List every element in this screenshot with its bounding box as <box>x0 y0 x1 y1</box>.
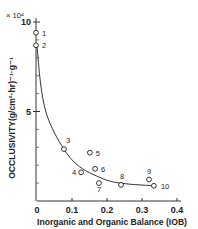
fit-curve <box>37 45 154 186</box>
x-tick-label: 0.4 <box>171 205 184 215</box>
y-multiplier: × 10⁴ <box>6 11 24 20</box>
open-circle-marker-icon <box>34 43 39 48</box>
point-label: 6 <box>101 165 105 174</box>
y-tick-label: 5 <box>26 107 31 117</box>
open-circle-marker-icon <box>152 183 157 188</box>
x-axis-title: Inorganic and Organic Balance (IOB) <box>37 217 187 227</box>
data-point-7: 7 <box>97 181 102 194</box>
x-tick-label: 0.3 <box>136 205 149 215</box>
y-axis-title: OCCLUSIVITY(g/cm²·hr)⁻¹·g⁻¹ <box>7 57 17 179</box>
point-label: 5 <box>96 149 100 158</box>
data-point-1: 1 <box>34 29 47 38</box>
data-points: 12345678910 <box>34 29 170 194</box>
x-tick-label: 0.1 <box>66 205 79 215</box>
occlusivity-chart: 00.10.20.30.4510 12345678910 × 10⁴ OCCLU… <box>0 0 198 229</box>
open-circle-marker-icon <box>79 170 84 175</box>
data-point-2: 2 <box>34 41 47 50</box>
open-circle-marker-icon <box>93 166 98 171</box>
open-circle-marker-icon <box>147 177 152 182</box>
data-point-6: 6 <box>93 165 106 174</box>
point-label: 7 <box>97 185 101 194</box>
data-point-8: 8 <box>119 172 125 187</box>
data-point-4: 4 <box>72 168 83 177</box>
point-label: 1 <box>42 29 46 38</box>
data-point-9: 9 <box>147 167 152 182</box>
data-point-5: 5 <box>87 149 100 158</box>
x-tick-label: 0.2 <box>101 205 114 215</box>
point-label: 10 <box>161 182 169 191</box>
point-label: 8 <box>120 172 124 181</box>
x-tick-label: 0 <box>34 205 39 215</box>
data-point-10: 10 <box>152 182 170 191</box>
data-point-3: 3 <box>62 136 71 151</box>
point-label: 9 <box>147 167 151 176</box>
open-circle-marker-icon <box>34 30 39 35</box>
open-circle-marker-icon <box>119 182 124 187</box>
open-circle-marker-icon <box>62 147 67 152</box>
point-label: 4 <box>72 168 76 177</box>
open-circle-marker-icon <box>87 150 92 155</box>
point-label: 2 <box>42 41 46 50</box>
point-label: 3 <box>66 136 70 145</box>
fit-curve-path <box>37 45 154 186</box>
